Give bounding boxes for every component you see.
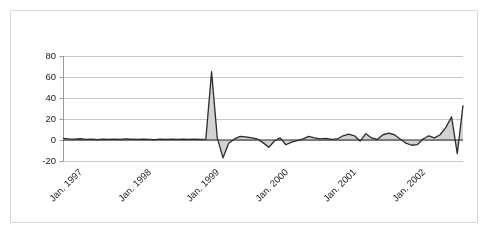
chart-frame: -20020406080 Jan. 1997Jan. 1998Jan. 1999… — [10, 10, 478, 223]
y-tick-label: 60 — [11, 72, 56, 82]
y-tick-label: 0 — [11, 135, 56, 145]
y-tick-label: 40 — [11, 93, 56, 103]
y-tick-label: 80 — [11, 51, 56, 61]
y-tick-label: 20 — [11, 114, 56, 124]
y-tick-label: -20 — [11, 156, 56, 166]
